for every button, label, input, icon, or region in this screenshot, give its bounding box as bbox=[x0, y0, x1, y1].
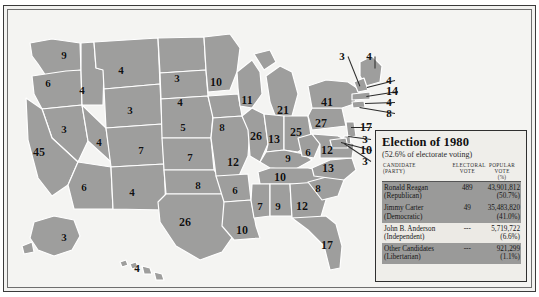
state-ev-callout-label: 3 bbox=[362, 156, 368, 167]
candidate-cell: Other Candidates(Libertarian) bbox=[382, 243, 452, 263]
candidate-party: (Libertarian) bbox=[384, 253, 451, 261]
election-map-figure: 9644334457643457826108126101126211325910… bbox=[0, 0, 539, 297]
state-ev-label: 6 bbox=[305, 147, 311, 158]
candidate-cell: Ronald Reagan(Republican) bbox=[382, 182, 452, 203]
candidate-name: Other Candidates bbox=[384, 245, 451, 253]
popular-vote-cell: 43,901,812(50.7%) bbox=[482, 182, 521, 203]
candidate-name: John B. Anderson bbox=[384, 225, 451, 233]
column-header-electoral-vote: ELECTORAL VOTE bbox=[452, 162, 483, 182]
state-ev-label: 26 bbox=[250, 131, 262, 142]
state-ev-label: 8 bbox=[219, 122, 225, 133]
state-ev-label: 11 bbox=[241, 95, 252, 106]
candidate-cell: John B. Anderson(Independent) bbox=[382, 223, 452, 243]
candidate-party: (Independent) bbox=[384, 233, 451, 241]
results-row: John B. Anderson(Independent)---5,719,72… bbox=[382, 223, 521, 243]
state-ev-label: 10 bbox=[274, 172, 286, 183]
state-ev-label: 10 bbox=[236, 225, 248, 236]
popular-vote-count: 5,719,722 bbox=[484, 225, 520, 233]
state-ev-label: 9 bbox=[61, 50, 67, 61]
state-ev-label: 12 bbox=[321, 145, 333, 156]
popular-vote-cell: 921,299(1.1%) bbox=[482, 243, 521, 263]
state-ev-label: 9 bbox=[285, 153, 291, 164]
state-ev-label: 41 bbox=[321, 97, 333, 108]
state-ev-callout-label: 4 bbox=[366, 51, 372, 62]
state-ev-label: 12 bbox=[227, 157, 239, 168]
popular-vote-count: 921,299 bbox=[484, 245, 520, 253]
popular-vote-percent: (41.0%) bbox=[484, 213, 520, 221]
state-ev-label: 10 bbox=[210, 77, 222, 88]
candidate-party: (Republican) bbox=[384, 192, 451, 200]
popular-vote-count: 35,483,820 bbox=[484, 204, 520, 212]
electoral-vote-cell: 489 bbox=[452, 182, 483, 203]
candidate-cell: Jimmy Carter(Democratic) bbox=[382, 202, 452, 222]
state-ev-label: 4 bbox=[177, 97, 183, 108]
state-ev-label: 7 bbox=[138, 145, 144, 156]
state-ev-callout-label: 8 bbox=[386, 108, 392, 119]
state-ev-label: 45 bbox=[33, 147, 45, 158]
election-results-legend: Election of 1980 (52.6% of electorate vo… bbox=[375, 130, 527, 282]
legend-subtitle: (52.6% of electorate voting) bbox=[382, 150, 521, 159]
popular-vote-cell: 5,719,722(6.6%) bbox=[482, 223, 521, 243]
state-ev-label: 8 bbox=[315, 183, 321, 194]
state-ev-label: 17 bbox=[321, 240, 333, 251]
state-ev-label: 7 bbox=[187, 152, 193, 163]
results-table: CANDIDATE (PARTY) ELECTORAL VOTE POPULAR… bbox=[382, 162, 521, 264]
state-ev-callout-label: 17 bbox=[360, 122, 372, 133]
electoral-vote-cell: --- bbox=[452, 223, 483, 243]
state-ev-label: 3 bbox=[127, 105, 133, 116]
results-row: Other Candidates(Libertarian)---921,299(… bbox=[382, 243, 521, 263]
state-ev-label: 12 bbox=[296, 201, 308, 212]
state-ev-label: 13 bbox=[268, 134, 280, 145]
electoral-vote-cell: 49 bbox=[452, 202, 483, 222]
state-ev-label: 4 bbox=[96, 137, 102, 148]
column-header-popular-vote: POPULAR VOTE (%) bbox=[482, 162, 521, 182]
state-ev-label: 13 bbox=[322, 163, 334, 174]
state-ev-callout-label: 3 bbox=[339, 51, 345, 62]
candidate-party: (Democratic) bbox=[384, 213, 451, 221]
state-ev-label: 27 bbox=[315, 118, 327, 129]
popular-vote-cell: 35,483,820(41.0%) bbox=[482, 202, 521, 222]
results-row: Jimmy Carter(Democratic)4935,483,820(41.… bbox=[382, 202, 521, 222]
popular-vote-percent: (50.7%) bbox=[484, 192, 520, 200]
column-header-candidate: CANDIDATE (PARTY) bbox=[382, 162, 452, 182]
results-row: Ronald Reagan(Republican)48943,901,812(5… bbox=[382, 182, 521, 203]
state-ev-label: 4 bbox=[118, 65, 124, 76]
state-ev-label: 6 bbox=[232, 185, 238, 196]
state-ev-label: 4 bbox=[129, 187, 135, 198]
state-ev-label: 9 bbox=[275, 201, 281, 212]
state-ev-label: 21 bbox=[277, 105, 289, 116]
callout-leader-line bbox=[375, 57, 376, 69]
state-ev-label: 4 bbox=[134, 263, 140, 274]
legend-title: Election of 1980 bbox=[382, 135, 521, 149]
state-ev-label: 3 bbox=[174, 73, 180, 84]
popular-vote-count: 43,901,812 bbox=[484, 184, 520, 192]
candidate-name: Jimmy Carter bbox=[384, 204, 451, 212]
state-ev-label: 3 bbox=[61, 124, 67, 135]
popular-vote-percent: (1.1%) bbox=[484, 253, 520, 261]
state-ev-label: 8 bbox=[195, 180, 201, 191]
state-ev-label: 6 bbox=[45, 78, 51, 89]
electoral-vote-cell: --- bbox=[452, 243, 483, 263]
state-ev-label: 7 bbox=[257, 201, 263, 212]
state-ev-label: 4 bbox=[79, 85, 85, 96]
state-ev-label: 3 bbox=[61, 232, 67, 243]
candidate-name: Ronald Reagan bbox=[384, 184, 451, 192]
state-ev-label: 5 bbox=[180, 122, 186, 133]
popular-vote-percent: (6.6%) bbox=[484, 233, 520, 241]
state-ev-label: 6 bbox=[81, 182, 87, 193]
state-ev-label: 26 bbox=[179, 217, 191, 228]
state-ev-label: 25 bbox=[290, 127, 302, 138]
